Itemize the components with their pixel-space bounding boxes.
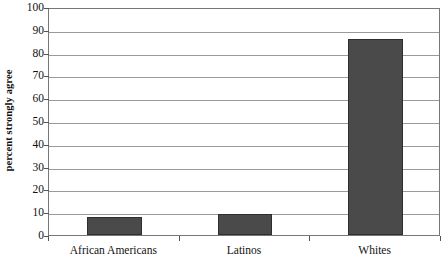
y-axis-tick-mark	[44, 190, 49, 191]
y-axis-tick-mark	[44, 122, 49, 123]
bar-latinos	[218, 214, 273, 235]
x-axis-tick-label: Whites	[358, 244, 391, 256]
y-axis-tick-label: 90	[14, 25, 44, 37]
y-axis-tick-label: 30	[14, 162, 44, 174]
x-axis-tick-label: African Americans	[70, 244, 157, 256]
y-axis-tick-label: 50	[14, 116, 44, 128]
x-axis-tick-mark	[48, 236, 49, 241]
x-axis-tick-labels: African AmericansLatinosWhites	[48, 244, 440, 268]
y-axis-tick-mark	[44, 99, 49, 100]
y-axis-tick-mark	[44, 8, 49, 9]
y-axis-tick-mark	[44, 213, 49, 214]
x-axis-tick-mark	[179, 236, 180, 241]
y-axis-title-text: percent strongly agree	[4, 69, 15, 171]
bar-african-americans	[87, 217, 142, 235]
y-axis-tick-label: 100	[14, 2, 44, 14]
y-axis-tick-mark	[44, 145, 49, 146]
x-axis-tick-mark	[309, 236, 310, 241]
y-axis-tick-label: 20	[14, 185, 44, 197]
y-axis-tick-labels: 0102030405060708090100	[14, 8, 44, 236]
y-axis-tick-mark	[44, 54, 49, 55]
y-axis-tick-mark	[44, 76, 49, 77]
y-axis-tick-label: 40	[14, 139, 44, 151]
y-axis-tick-mark	[44, 31, 49, 32]
y-axis-tick-label: 70	[14, 71, 44, 83]
bars-layer	[49, 9, 439, 235]
y-axis-tick-label: 0	[14, 230, 44, 242]
y-axis-tick-mark	[44, 168, 49, 169]
y-axis-tick-label: 10	[14, 207, 44, 219]
x-axis-tick-label: Latinos	[227, 244, 262, 256]
x-axis-tick-mark	[440, 236, 441, 241]
bar-whites	[348, 39, 403, 235]
y-axis-tick-label: 80	[14, 48, 44, 60]
y-axis-tick-label: 60	[14, 93, 44, 105]
bar-chart: percent strongly agree 01020304050607080…	[0, 0, 448, 273]
plot-area	[48, 8, 440, 236]
